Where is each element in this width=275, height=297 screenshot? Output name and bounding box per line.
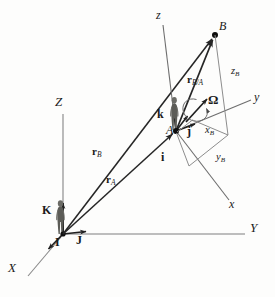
angular-velocity-group bbox=[183, 99, 207, 122]
projection-label-zB: zB bbox=[231, 66, 239, 78]
projection-label-yB-subscript: B bbox=[221, 156, 225, 164]
vector-diagram-canvas bbox=[0, 0, 275, 297]
angular-velocity-label-omega: Ω bbox=[208, 93, 218, 106]
projection-construction-lines bbox=[177, 35, 229, 166]
projection-label-xB: xB bbox=[205, 125, 214, 137]
projection-zB-line bbox=[215, 35, 228, 135]
unit-vector-label-K: K bbox=[42, 204, 51, 216]
axis-label-Y: Y bbox=[250, 221, 257, 234]
projection-label-zB-subscript: B bbox=[235, 70, 239, 78]
point-label-A: A bbox=[166, 124, 173, 136]
axis-x-line bbox=[176, 131, 229, 200]
unit-vector-label-i: i bbox=[161, 151, 164, 163]
unit-vector-label-k: k bbox=[157, 108, 164, 120]
projection-label-xB-subscript: B bbox=[210, 129, 214, 137]
vector-label-rBA-subscript: B/A bbox=[192, 78, 203, 87]
unit-vector-label-j: j bbox=[187, 125, 191, 137]
axis-label-y: y bbox=[254, 91, 259, 103]
vector-label-rB: rB bbox=[92, 146, 101, 159]
projection-label-yB: yB bbox=[216, 152, 225, 164]
unit-vector-label-J: J bbox=[76, 234, 82, 246]
unit-vector-label-I: I bbox=[55, 236, 60, 248]
vector-rA-arrow bbox=[63, 134, 173, 234]
vector-label-rA-subscript: A bbox=[111, 178, 116, 187]
axis-label-Z: Z bbox=[55, 95, 62, 108]
point-label-B: B bbox=[219, 20, 226, 32]
vector-label-rA: rA bbox=[106, 174, 115, 187]
axis-label-z: z bbox=[156, 9, 161, 21]
figure-root: X Y Z I J K x y z i j k A B rA rB rB/A Ω… bbox=[0, 0, 275, 297]
vector-label-rB-subscript: B bbox=[97, 150, 102, 159]
vector-label-rBA: rB/A bbox=[187, 74, 203, 87]
axis-label-X: X bbox=[8, 261, 16, 274]
axis-label-x: x bbox=[229, 198, 234, 210]
